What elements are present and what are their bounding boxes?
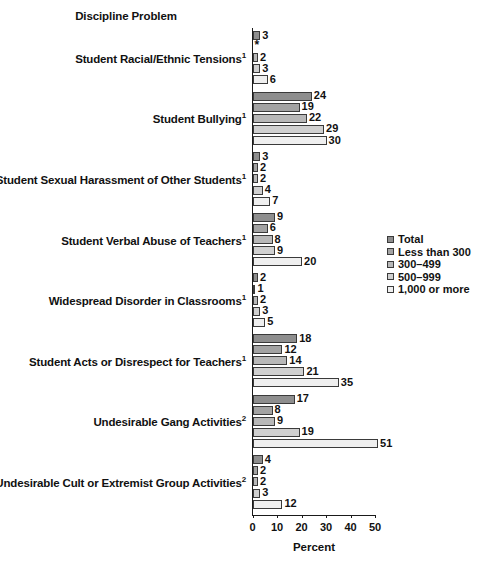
bar-value-label: 12 bbox=[284, 345, 296, 354]
bar bbox=[253, 307, 260, 316]
bar-value-label: 3 bbox=[262, 488, 268, 497]
bar bbox=[253, 395, 295, 404]
bar-value-label: 2 bbox=[260, 174, 266, 183]
category-label-text: Student Racial/Ethnic Tensions bbox=[75, 53, 242, 65]
x-tick-label: 50 bbox=[369, 521, 381, 533]
bar-value-label: 3 bbox=[262, 152, 268, 161]
bar bbox=[253, 75, 268, 84]
bar-value-label: 20 bbox=[304, 257, 316, 266]
footnote-marker: 2 bbox=[242, 414, 246, 423]
legend-item: 1,000 or more bbox=[387, 283, 471, 296]
bar bbox=[253, 406, 273, 415]
bar bbox=[253, 477, 258, 486]
bar bbox=[253, 356, 287, 365]
x-tick-mark bbox=[302, 515, 303, 518]
category-label: Student Acts or Disrespect for Teachers1 bbox=[29, 356, 246, 368]
category-label-text: Undesirable Cult or Extremist Group Acti… bbox=[0, 477, 242, 489]
bar-chart: Discipline Problem 01020304050 Percent 3… bbox=[0, 0, 484, 567]
category-label-text: Widespread Disorder in Classrooms bbox=[49, 295, 242, 307]
bar-value-label: 2 bbox=[260, 163, 266, 172]
bar bbox=[253, 455, 263, 464]
bar bbox=[253, 114, 307, 123]
bar bbox=[253, 318, 265, 327]
legend-swatch-icon bbox=[387, 273, 394, 280]
legend-swatch-icon bbox=[387, 236, 394, 243]
bar-value-label: 30 bbox=[329, 136, 341, 145]
chart-title: Discipline Problem bbox=[0, 10, 252, 22]
bar-value-label: 29 bbox=[326, 124, 338, 133]
bar-value-label: 5 bbox=[267, 317, 273, 326]
bar bbox=[253, 125, 324, 134]
bar bbox=[253, 500, 282, 509]
legend-item-label: 1,000 or more bbox=[398, 283, 470, 295]
bar-value-label: 7 bbox=[272, 196, 278, 205]
bar-value-label: 9 bbox=[277, 246, 283, 255]
x-tick-mark bbox=[277, 515, 278, 518]
bar-value-label: 2 bbox=[260, 53, 266, 62]
legend-swatch-icon bbox=[387, 248, 394, 255]
category-label-text: Student Verbal Abuse of Teachers bbox=[61, 235, 242, 247]
bar bbox=[253, 257, 302, 266]
category-label: Undesirable Gang Activities2 bbox=[93, 416, 246, 428]
bar bbox=[253, 174, 258, 183]
legend-swatch-icon bbox=[387, 261, 394, 268]
bar bbox=[253, 466, 258, 475]
suppressed-value-marker: * bbox=[255, 41, 260, 50]
bar bbox=[253, 367, 304, 376]
bar bbox=[253, 136, 327, 145]
x-tick-label: 40 bbox=[344, 521, 356, 533]
x-axis-caption: Percent bbox=[252, 541, 376, 553]
bar-value-label: 1 bbox=[257, 284, 263, 293]
bar-value-label: 18 bbox=[299, 334, 311, 343]
bar-value-label: 6 bbox=[270, 75, 276, 84]
category-label: Widespread Disorder in Classrooms1 bbox=[49, 295, 246, 307]
bar-value-label: 4 bbox=[265, 185, 271, 194]
x-tick-label: 20 bbox=[295, 521, 307, 533]
bar bbox=[253, 186, 263, 195]
bar-value-label: 2 bbox=[260, 273, 266, 282]
category-label: Undesirable Cult or Extremist Group Acti… bbox=[0, 477, 246, 489]
bar-value-label: 24 bbox=[314, 91, 326, 100]
bar bbox=[253, 334, 297, 343]
x-tick-mark bbox=[253, 515, 254, 518]
footnote-marker: 1 bbox=[242, 354, 246, 363]
category-label-text: Student Sexual Harassment of Other Stude… bbox=[0, 174, 242, 186]
bar-value-label: 2 bbox=[260, 477, 266, 486]
bar-value-label: 9 bbox=[277, 416, 283, 425]
legend-item: Less than 300 bbox=[387, 246, 471, 259]
category-label: Student Verbal Abuse of Teachers1 bbox=[61, 235, 246, 247]
x-tick-mark bbox=[351, 515, 352, 518]
bar bbox=[253, 64, 260, 73]
bar bbox=[253, 103, 300, 112]
bar bbox=[253, 163, 258, 172]
bar-value-label: 14 bbox=[289, 356, 301, 365]
footnote-marker: 2 bbox=[242, 475, 246, 484]
bar bbox=[253, 235, 273, 244]
bar-value-label: 51 bbox=[380, 439, 392, 448]
category-label: Student Sexual Harassment of Other Stude… bbox=[0, 174, 246, 186]
bar bbox=[253, 417, 275, 426]
legend-item: 300–499 bbox=[387, 258, 471, 271]
bar-value-label: 3 bbox=[262, 306, 268, 315]
bar-value-label: 2 bbox=[260, 295, 266, 304]
category-label: Student Bullying1 bbox=[153, 113, 246, 125]
bar-value-label: 3 bbox=[262, 31, 268, 40]
category-label-text: Undesirable Gang Activities bbox=[93, 416, 241, 428]
bar bbox=[253, 246, 275, 255]
bar-value-label: 22 bbox=[309, 113, 321, 122]
x-tick-label: 10 bbox=[271, 521, 283, 533]
footnote-marker: 1 bbox=[242, 51, 246, 60]
legend-item-label: Total bbox=[398, 233, 423, 245]
legend-swatch-icon bbox=[387, 286, 394, 293]
bar bbox=[253, 489, 260, 498]
legend-item-label: 300–499 bbox=[398, 258, 441, 270]
footnote-marker: 1 bbox=[242, 293, 246, 302]
bar-value-label: 8 bbox=[275, 405, 281, 414]
legend-item-label: Less than 300 bbox=[398, 246, 471, 258]
legend-item-label: 500–999 bbox=[398, 271, 441, 283]
chart-legend: TotalLess than 300300–499500–9991,000 or… bbox=[387, 233, 471, 296]
legend-item: 500–999 bbox=[387, 271, 471, 284]
bar-value-label: 6 bbox=[270, 223, 276, 232]
bar bbox=[253, 285, 255, 294]
bar-value-label: 9 bbox=[277, 212, 283, 221]
